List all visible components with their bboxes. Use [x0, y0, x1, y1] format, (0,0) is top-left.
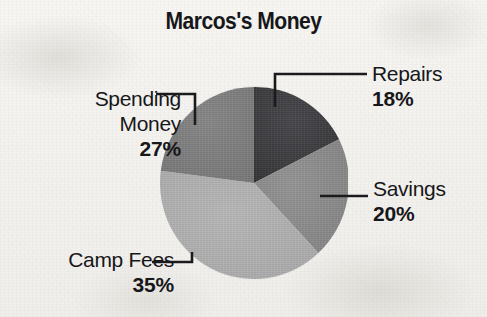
chart-page: Marcos's Money: [0, 0, 487, 317]
slice-label-spending-money: Spending Money 27%: [26, 86, 181, 161]
pie-chart: [160, 86, 348, 280]
slice-label-camp-fees-name: Camp Fees: [14, 247, 174, 272]
slice-label-camp-fees: Camp Fees 35%: [14, 247, 174, 297]
slice-label-spending-money-percent: 27%: [26, 136, 181, 161]
pie-chart-svg: [160, 86, 348, 280]
slice-label-savings-name: Savings: [373, 176, 446, 201]
slice-label-savings-percent: 20%: [373, 201, 446, 226]
slice-label-repairs: Repairs 18%: [372, 61, 442, 111]
slice-label-repairs-percent: 18%: [372, 86, 442, 111]
slice-label-spending-money-name-line2: Money: [26, 111, 181, 136]
slice-label-spending-money-name-line1: Spending: [26, 86, 181, 111]
slice-label-savings: Savings 20%: [373, 176, 446, 226]
slice-label-camp-fees-percent: 35%: [14, 272, 174, 297]
page-title: Marcos's Money: [29, 7, 458, 35]
slice-label-repairs-name: Repairs: [372, 61, 442, 86]
